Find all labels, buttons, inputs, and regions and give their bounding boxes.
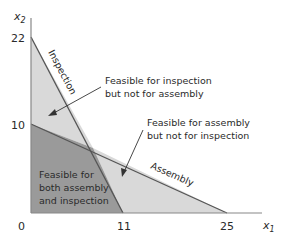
y-axis-label: x2 [13, 10, 26, 25]
arrow-assembly-only [124, 130, 143, 172]
feasible-region-chart: x2 x1 22 10 0 11 25 Inspection Assembly … [0, 0, 285, 236]
x-axis-label: x1 [262, 219, 275, 234]
x-tick-11: 11 [117, 220, 131, 233]
y-tick-10: 10 [11, 119, 25, 132]
note-assembly-only: Feasible for assembly but not for inspec… [147, 117, 253, 141]
y-tick-22: 22 [11, 32, 25, 45]
origin-label: 0 [18, 220, 25, 233]
x-tick-25: 25 [220, 220, 234, 233]
note-inspection-only: Feasible for inspection but not for asse… [105, 75, 215, 99]
